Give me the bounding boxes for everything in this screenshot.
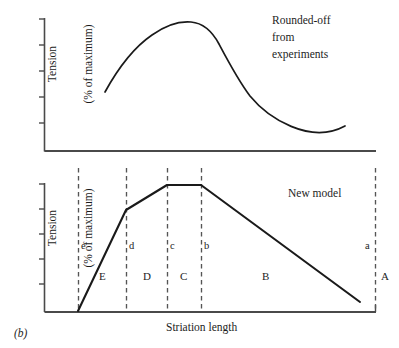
region-label-A: A [381,270,389,284]
region-label-C: C [180,270,187,284]
bottom-annotation: New model [288,186,341,200]
top-annotation-line3: experiments [272,47,328,61]
new-model-curve [78,185,360,311]
bottom-y-axis-label-line2: (% of maximum) [82,168,94,288]
breakpoint-label-c: c [170,239,175,252]
top-y-axis-label-line2: (% of maximum) [82,4,94,124]
top-y-axis-label: Tension (% of maximum) [22,4,118,124]
experimental-tension-curve [105,22,345,133]
top-y-axis-label-line1: Tension [46,4,58,124]
panel-label: (b) [14,326,27,340]
top-annotation-line2: from [272,30,294,44]
figure-panel-b: Tension (% of maximum) Rounded-off from … [0,0,399,348]
breakpoint-label-e: e [81,239,86,252]
breakpoint-label-d: d [129,239,134,252]
region-label-D: D [143,270,151,284]
bottom-y-axis-label-line1: Tension [46,168,58,288]
region-label-E: E [99,270,106,284]
x-axis-label: Striation length [166,320,237,334]
breakpoint-label-a: a [365,239,370,252]
breakpoint-label-b: b [204,239,209,252]
top-annotation-line1: Rounded-off [272,13,331,27]
region-label-B: B [262,270,269,284]
